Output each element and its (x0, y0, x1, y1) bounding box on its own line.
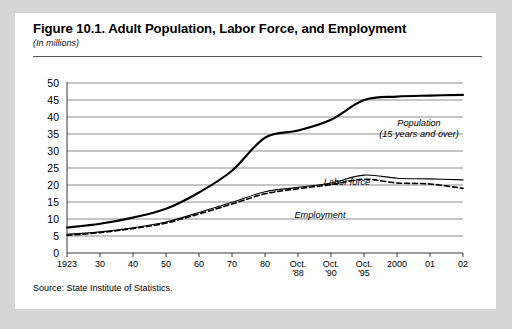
source-note: Source: State Institute of Statistics. (33, 283, 173, 293)
x-axis-label: 01 (425, 259, 435, 269)
chart-plot-area: 504540353025201510501923304050607080Oct.… (15, 13, 496, 309)
x-axis-label-second-line: '90 (325, 268, 337, 278)
series-line-1 (67, 175, 463, 234)
series-line-2 (67, 179, 463, 235)
x-axis-label: 70 (227, 259, 237, 269)
y-axis-label: 45 (47, 94, 59, 106)
annotation-employment: Employment (294, 210, 346, 220)
x-axis-label-second-line: '88 (292, 268, 304, 278)
y-axis-label: 0 (53, 247, 59, 259)
x-axis-label: 40 (128, 259, 138, 269)
x-axis-label: 60 (194, 259, 204, 269)
y-axis-label: 10 (47, 213, 59, 225)
annotation-population: Population (397, 118, 440, 128)
figure-card: Figure 10.1. Adult Population, Labor For… (15, 13, 496, 309)
annotation-population-sub: (15 years and over) (379, 129, 459, 139)
series-line-0 (67, 95, 463, 228)
y-axis-label: 35 (47, 128, 59, 140)
y-axis-label: 20 (47, 179, 59, 191)
x-axis-label: 80 (260, 259, 270, 269)
x-axis-label-second-line: '95 (358, 268, 370, 278)
y-axis-label: 40 (47, 111, 59, 123)
x-axis-label: 02 (458, 259, 468, 269)
y-axis-label: 15 (47, 196, 59, 208)
y-axis-label: 50 (47, 77, 59, 89)
y-axis-label: 30 (47, 145, 59, 157)
x-axis-label: 1923 (57, 259, 77, 269)
y-axis-label: 5 (53, 230, 59, 242)
line-chart: 504540353025201510501923304050607080Oct.… (15, 13, 496, 309)
y-axis-label: 25 (47, 162, 59, 174)
x-axis-label: 50 (161, 259, 171, 269)
x-axis-label: 30 (95, 259, 105, 269)
annotation-labor-force: Labor force (324, 177, 370, 187)
x-axis-label: 2000 (387, 259, 407, 269)
